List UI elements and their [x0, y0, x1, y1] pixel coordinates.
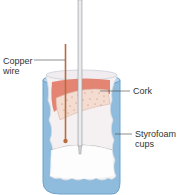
cork-label-text: Cork: [133, 86, 152, 96]
styrofoam-label-line2: cups: [135, 139, 176, 149]
thermometer: [78, 0, 82, 154]
styrofoam-label-line1: Styrofoam: [135, 129, 176, 139]
styrofoam-cups-label: Styrofoam cups: [135, 129, 176, 149]
calorimeter-diagram: Copper wire Cork Styrofoam cups: [0, 0, 182, 195]
copper-wire-label-line1: Copper: [3, 56, 33, 66]
copper-wire-label-line2: wire: [3, 66, 33, 76]
copper-wire-label: Copper wire: [3, 56, 33, 76]
calorimeter-illustration: [0, 0, 182, 195]
cork-label: Cork: [133, 86, 152, 96]
